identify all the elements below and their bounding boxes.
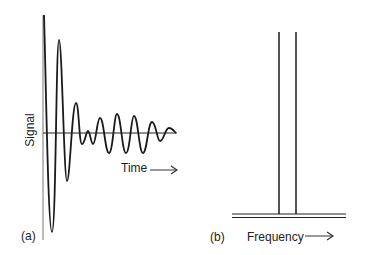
panel-b — [232, 32, 346, 240]
time-arrow-icon — [150, 166, 177, 174]
signal-waveform — [44, 15, 176, 232]
frequency-arrow-icon — [305, 232, 333, 240]
time-axis-label: Time — [121, 161, 147, 175]
figure-canvas — [0, 0, 367, 255]
panel-a — [43, 15, 177, 240]
signal-axis-label: Signal — [23, 112, 37, 148]
frequency-axis-label: Frequency — [247, 230, 304, 244]
panel-b-label: (b) — [210, 230, 225, 244]
panel-a-label: (a) — [21, 229, 36, 243]
